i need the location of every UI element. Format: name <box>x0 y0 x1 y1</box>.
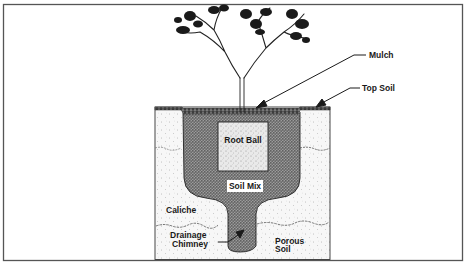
porous-soil-label-line2: Soil <box>275 244 291 254</box>
caliche-label: Caliche <box>166 205 197 215</box>
planting-diagram: Mulch Top Soil Root Ball Soil Mix Calich… <box>0 0 468 267</box>
soil-mix-label: Soil Mix <box>229 181 261 191</box>
root-ball-label: Root Ball <box>224 135 261 145</box>
root-ball <box>218 122 268 171</box>
drainage-chimney-label-line2: Chimney <box>172 239 208 249</box>
mulch-label: Mulch <box>369 50 394 60</box>
mulch-top <box>182 108 300 113</box>
top-soil-label: Top Soil <box>362 83 395 93</box>
